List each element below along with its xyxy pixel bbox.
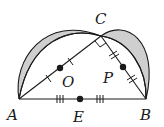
geometry-figure: A B C O P E bbox=[0, 0, 164, 127]
label-a: A bbox=[5, 106, 18, 124]
label-c: C bbox=[95, 10, 107, 28]
right-angle-mark bbox=[95, 41, 106, 47]
lune-diagram: A B C O P E bbox=[0, 0, 164, 127]
label-o: O bbox=[62, 73, 74, 91]
label-b: B bbox=[139, 106, 151, 124]
point-o bbox=[57, 65, 63, 71]
point-p bbox=[120, 64, 126, 70]
label-p: P bbox=[102, 69, 114, 87]
point-e bbox=[77, 96, 83, 102]
lune-cb bbox=[101, 30, 149, 99]
label-e: E bbox=[72, 108, 84, 126]
